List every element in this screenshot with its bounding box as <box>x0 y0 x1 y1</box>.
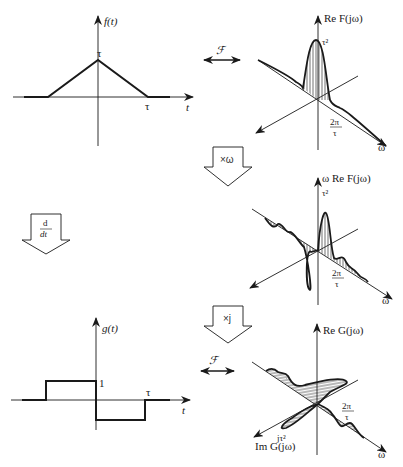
fourier-arrow-top: ℱ <box>204 44 240 60</box>
triangle-pulse <box>24 60 170 97</box>
times-omega-label: ×ω <box>220 154 234 165</box>
j-tau-squared-label: jτ² <box>276 433 286 443</box>
tau-tick-label: τ <box>145 100 150 112</box>
derivative-arrow: d dt <box>22 214 70 254</box>
tau-den-3: τ <box>345 412 349 422</box>
plot-G: Re G(jω) Im G(jω) jτ² 2π τ ω <box>252 324 386 460</box>
omega-label-3: ω <box>378 448 385 460</box>
f-t-label: f(t) <box>104 15 118 28</box>
two-pi-num-2: 2π <box>332 268 342 278</box>
plot-omega-re-F: τ² 2π τ ω Re F(jω) ω <box>250 172 392 306</box>
omega-re-F-curve <box>265 213 368 290</box>
figure-canvas: f(t) τ τ t ℱ Re F(jω) τ² 2π τ ω ×ω τ² 2π <box>0 0 403 467</box>
tau-tick-g: τ <box>146 386 151 398</box>
peak-tau-label: τ <box>97 47 102 59</box>
times-omega-arrow: ×ω <box>204 147 252 186</box>
t-axis-label-g: t <box>182 404 186 416</box>
times-j-arrow: ×j <box>204 306 252 343</box>
two-pi-num: 2π <box>330 117 340 127</box>
fourier-symbol: ℱ <box>216 44 227 56</box>
plot-g-t: g(t) 1 τ t <box>11 318 190 430</box>
derivative-d: d <box>43 218 48 228</box>
times-j-label: ×j <box>223 313 231 324</box>
t-axis-label: t <box>186 101 190 113</box>
omega-label-2: ω <box>382 294 389 306</box>
tau-squared-label: τ² <box>322 37 329 47</box>
derivative-dt: dt <box>40 229 48 239</box>
tau-den: τ <box>333 128 337 138</box>
two-pi-num-3: 2π <box>342 401 352 411</box>
re-F-label: Re F(jω) <box>324 12 363 25</box>
re-G-label: Re G(jω) <box>323 324 364 337</box>
plot-f-t: f(t) τ τ t <box>13 15 193 146</box>
g-t-label: g(t) <box>102 322 118 335</box>
tau-den-2: τ <box>335 279 339 289</box>
fourier-symbol-bottom: ℱ <box>209 354 220 366</box>
tau-squared-label-2: τ² <box>322 188 329 198</box>
level-one-label: 1 <box>99 377 105 389</box>
plot-re-F: Re F(jω) τ² 2π τ ω <box>256 12 386 153</box>
fourier-arrow-bottom: ℱ <box>201 354 234 371</box>
omega-re-F-label: ω Re F(jω) <box>322 172 371 185</box>
omega-label: ω <box>378 141 385 153</box>
im-G-label: Im G(jω) <box>255 440 296 453</box>
